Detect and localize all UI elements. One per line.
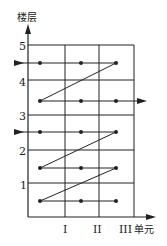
entry-arrow-icon bbox=[14, 129, 24, 135]
y-axis-label: 楼层 bbox=[17, 11, 37, 23]
y-tick-2: 2 bbox=[19, 145, 26, 158]
x-tick-II: II bbox=[93, 223, 102, 236]
traversal-path bbox=[14, 63, 140, 201]
y-tick-1: 1 bbox=[20, 179, 27, 192]
y-tick-5: 5 bbox=[19, 40, 26, 53]
y-tick-4: 4 bbox=[19, 76, 26, 89]
y-tick-3: 3 bbox=[19, 110, 26, 123]
exit-arrow-icon bbox=[137, 98, 147, 104]
x-axis-label: 单元 bbox=[134, 224, 154, 235]
x-tick-III: III bbox=[119, 223, 132, 236]
entry-arrow-icon bbox=[14, 60, 24, 66]
floor-unit-diagram: 楼层 5 4 3 2 1 I II III 单元 bbox=[0, 0, 167, 246]
x-axis-arrow-icon bbox=[146, 214, 156, 220]
y-axis-arrow-icon bbox=[25, 24, 31, 34]
x-tick-I: I bbox=[63, 223, 67, 236]
